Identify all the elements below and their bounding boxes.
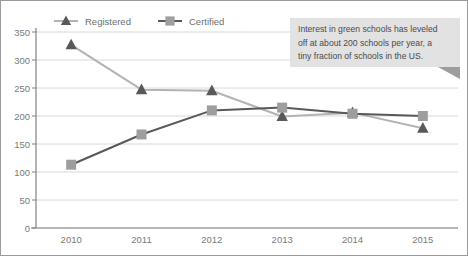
- y-axis-tick-label: 300: [14, 55, 30, 66]
- y-axis-tick-label: 150: [14, 139, 30, 150]
- y-axis-tick-label: 100: [14, 167, 30, 178]
- square-marker-icon: [277, 103, 287, 113]
- callout-text-line: off at about 200 schools per year, a: [298, 38, 432, 48]
- x-axis-tick-label: 2010: [61, 234, 82, 245]
- square-marker-icon: [165, 16, 174, 25]
- y-axis-tick-label: 0: [25, 223, 30, 234]
- legend-label-certified: Certified: [189, 16, 224, 27]
- callout-text-line: tiny fraction of schools in the US.: [298, 51, 423, 61]
- line-chart: 0501001502002503003502010201120122013201…: [0, 0, 468, 256]
- x-axis-tick-label: 2014: [342, 234, 363, 245]
- chart-container: 0501001502002503003502010201120122013201…: [0, 0, 468, 256]
- square-marker-icon: [207, 105, 217, 115]
- y-axis-tick-label: 200: [14, 111, 30, 122]
- callout-text-line: Interest in green schools has leveled: [298, 24, 438, 34]
- y-axis-tick-label: 250: [14, 83, 30, 94]
- square-marker-icon: [348, 109, 358, 119]
- x-axis-tick-label: 2013: [272, 234, 293, 245]
- square-marker-icon: [66, 160, 76, 170]
- x-axis-tick-label: 2012: [201, 234, 222, 245]
- y-axis-tick-label: 350: [14, 27, 30, 38]
- y-axis-tick-label: 50: [19, 195, 30, 206]
- x-axis-tick-label: 2011: [131, 234, 151, 245]
- square-marker-icon: [137, 129, 147, 139]
- legend-label-registered: Registered: [85, 16, 131, 27]
- square-marker-icon: [418, 111, 428, 121]
- x-axis-tick-label: 2015: [412, 234, 433, 245]
